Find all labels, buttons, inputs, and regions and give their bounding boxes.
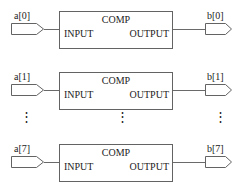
output-port-shape-icon[interactable]: [205, 156, 232, 168]
input-wire: [44, 90, 59, 91]
output-port-shape-icon[interactable]: [205, 23, 232, 35]
input-port-shape-icon[interactable]: [11, 23, 44, 35]
comp-block[interactable]: COMP INPUT OUTPUT: [59, 144, 173, 182]
output-wire: [173, 162, 205, 163]
vertical-ellipsis-icon: ⋮: [214, 110, 227, 123]
component-array-diagram: a[0] COMP INPUT OUTPUT b[0] a[1]: [0, 0, 238, 184]
input-wire: [44, 162, 59, 163]
comp-input-pin-label: INPUT: [64, 28, 93, 39]
comp-output-pin-label: OUTPUT: [130, 89, 169, 100]
component-row: a[1] COMP INPUT OUTPUT b[1]: [0, 61, 238, 111]
comp-output-pin-label: OUTPUT: [130, 28, 169, 39]
comp-block[interactable]: COMP INPUT OUTPUT: [59, 72, 173, 110]
input-signal-label: a[7]: [14, 143, 30, 155]
output-wire: [173, 90, 205, 91]
comp-block[interactable]: COMP INPUT OUTPUT: [59, 11, 173, 49]
output-signal-label: b[7]: [207, 143, 224, 155]
input-wire: [44, 29, 59, 30]
component-row: a[0] COMP INPUT OUTPUT b[0]: [0, 0, 238, 50]
input-signal-label: a[1]: [14, 71, 30, 83]
input-port-shape-icon[interactable]: [11, 84, 44, 96]
comp-block-title: COMP: [60, 75, 172, 86]
output-port-shape-icon[interactable]: [205, 84, 232, 96]
vertical-ellipsis-icon: ⋮: [20, 110, 33, 123]
input-signal-label: a[0]: [14, 10, 30, 22]
output-signal-label: b[0]: [207, 10, 224, 22]
output-wire: [173, 29, 205, 30]
component-row: a[7] COMP INPUT OUTPUT b[7]: [0, 133, 238, 183]
comp-block-title: COMP: [60, 14, 172, 25]
input-port-shape-icon[interactable]: [11, 156, 44, 168]
comp-block-title: COMP: [60, 147, 172, 158]
comp-output-pin-label: OUTPUT: [130, 161, 169, 172]
vertical-ellipsis-icon: ⋮: [116, 110, 129, 123]
output-signal-label: b[1]: [207, 71, 224, 83]
comp-input-pin-label: INPUT: [64, 89, 93, 100]
comp-input-pin-label: INPUT: [64, 161, 93, 172]
